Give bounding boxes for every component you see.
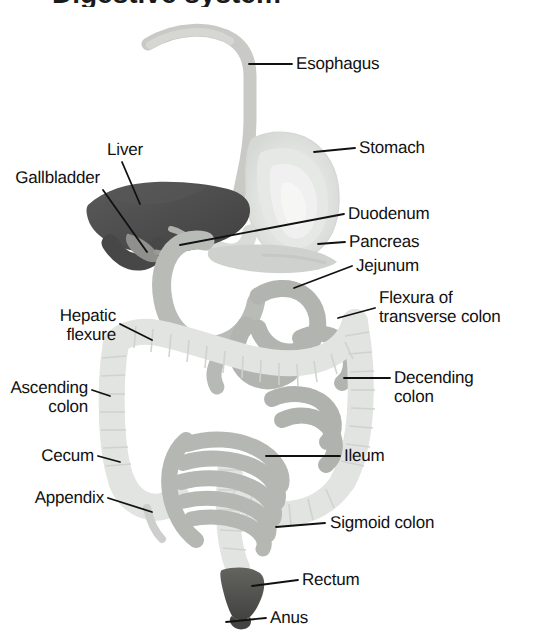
- label-flexura-transverse-colon: Flexura of transverse colon: [379, 288, 501, 326]
- label-ileum: Ileum: [344, 446, 385, 465]
- label-appendix: Appendix: [0, 488, 104, 507]
- label-liver: Liver: [98, 140, 152, 159]
- label-cecum: Cecum: [0, 446, 94, 465]
- organ-ileum: [169, 394, 335, 549]
- label-anus: Anus: [270, 608, 308, 627]
- label-hepatic-flexure: Hepatic flexure: [0, 306, 116, 344]
- label-pancreas: Pancreas: [349, 232, 419, 251]
- label-ascending-colon: Ascending colon: [0, 378, 88, 416]
- label-jejunum: Jejunum: [356, 256, 419, 275]
- label-stomach: Stomach: [359, 138, 425, 157]
- label-rectum: Rectum: [302, 570, 359, 589]
- label-sigmoid-colon: Sigmoid colon: [330, 513, 434, 532]
- label-descending-colon: Decending colon: [394, 368, 473, 406]
- organ-rectum: [220, 568, 264, 621]
- label-gallbladder: Gallbladder: [0, 168, 100, 187]
- digestive-system-figure: Digestive system: [0, 0, 540, 642]
- label-duodenum: Duodenum: [348, 204, 430, 223]
- label-esophagus: Esophagus: [296, 54, 379, 73]
